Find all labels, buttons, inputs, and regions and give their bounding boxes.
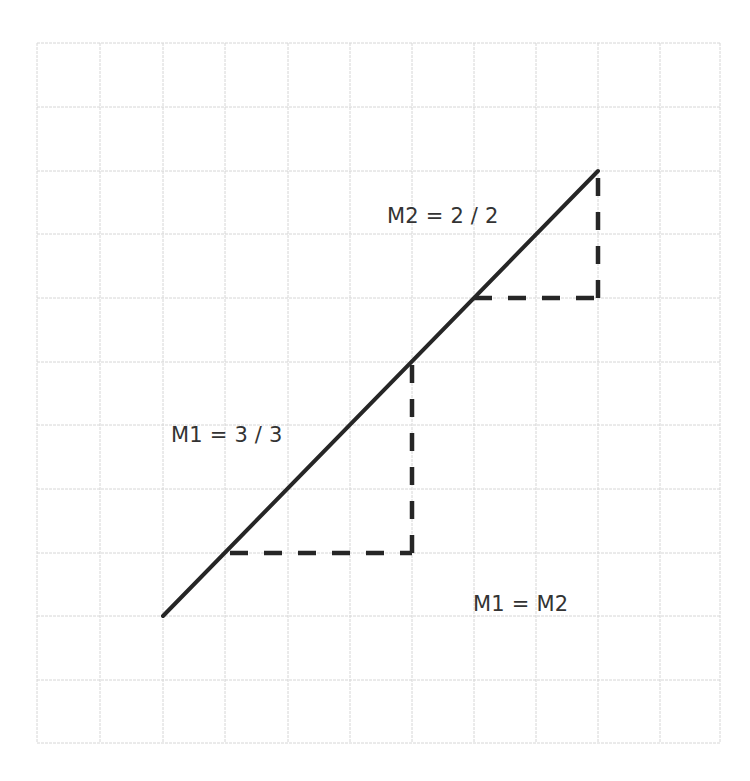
label-m1-slope: M1 = 3 / 3: [171, 425, 283, 446]
straight-line: [163, 171, 598, 616]
slope-diagram: [0, 0, 750, 781]
label-m2-slope: M2 = 2 / 2: [387, 206, 499, 227]
label-slopes-equal: M1 = M2: [473, 594, 568, 615]
